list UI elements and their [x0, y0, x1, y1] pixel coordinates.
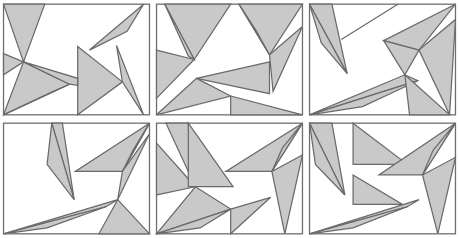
figure-panel-4[interactable]	[0, 119, 153, 238]
panel-6-drawing	[306, 119, 459, 238]
panel-3-drawing	[306, 0, 459, 119]
figure-panel-3[interactable]	[306, 0, 459, 119]
figure-panel-2[interactable]	[153, 0, 306, 119]
panel-5-drawing	[153, 119, 306, 238]
figure-canvas	[0, 0, 459, 238]
figure-panel-6[interactable]	[306, 119, 459, 238]
panel-grid	[0, 0, 459, 238]
figure-panel-5[interactable]	[153, 119, 306, 238]
figure-panel-1[interactable]	[0, 0, 153, 119]
panel-1-drawing	[0, 0, 153, 119]
panel-4-drawing	[0, 119, 153, 238]
panel-2-drawing	[153, 0, 306, 119]
